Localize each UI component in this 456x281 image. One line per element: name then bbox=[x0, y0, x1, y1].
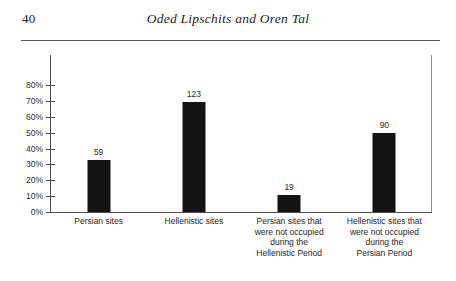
x-axis-category-labels: Persian sitesHellenistic sitesPersian si… bbox=[51, 216, 432, 276]
bar bbox=[182, 102, 205, 212]
y-axis-tick-label: 20% bbox=[26, 176, 43, 185]
bar-slot: 19 bbox=[242, 55, 337, 212]
bar-value-label: 59 bbox=[94, 148, 103, 157]
page-header: 40 Oded Lipschits and Oren Tal bbox=[0, 0, 456, 42]
y-axis-tick-label: 80% bbox=[26, 81, 43, 90]
x-axis-category-label-line: during the bbox=[242, 237, 337, 248]
bar-value-label: 19 bbox=[284, 183, 293, 192]
x-axis-category-label-line: Hellenistic Period bbox=[242, 248, 337, 259]
x-axis-category-label: Persian sites bbox=[51, 216, 146, 227]
y-axis-tick-label: 40% bbox=[26, 144, 43, 153]
x-axis-category-label-line: Hellenistic sites bbox=[146, 216, 241, 227]
x-axis-category-label: Hellenistic sites bbox=[146, 216, 241, 227]
x-axis-line bbox=[50, 212, 432, 213]
y-axis-tick-mark bbox=[46, 212, 55, 213]
y-axis-tick-label: 70% bbox=[26, 96, 43, 105]
bar-slot: 123 bbox=[146, 55, 241, 212]
bar bbox=[373, 133, 396, 212]
x-axis-category-label-line: were not occupied bbox=[242, 227, 337, 238]
x-axis-category-label-line: Persian sites that bbox=[242, 216, 337, 227]
x-axis-category-label-line: Persian sites bbox=[51, 216, 146, 227]
x-axis-category-label-line: Hellenistic sites that bbox=[337, 216, 432, 227]
x-axis-category-label-line: were not occupied bbox=[337, 227, 432, 238]
bar-chart: 0%10%20%30%40%50%60%70%80% 591231990 Per… bbox=[0, 44, 456, 281]
y-axis-tick-label: 0% bbox=[31, 208, 43, 217]
running-title: Oded Lipschits and Oren Tal bbox=[0, 11, 456, 26]
bar bbox=[278, 195, 301, 212]
y-axis-tick-label: 60% bbox=[26, 112, 43, 121]
bar-series: 591231990 bbox=[51, 55, 432, 212]
bar bbox=[87, 160, 110, 212]
y-axis-tick-label: 50% bbox=[26, 128, 43, 137]
x-axis-category-label: Persian sites thatwere not occupieddurin… bbox=[242, 216, 337, 258]
x-axis-category-label-line: Persian Period bbox=[337, 248, 432, 259]
header-rule bbox=[21, 40, 440, 41]
x-axis-category-label: Hellenistic sites thatwere not occupiedd… bbox=[337, 216, 432, 258]
bar-value-label: 90 bbox=[380, 121, 389, 130]
y-axis-tick-label: 30% bbox=[26, 160, 43, 169]
y-axis-tick-label: 10% bbox=[26, 192, 43, 201]
plot-area: 0%10%20%30%40%50%60%70%80% 591231990 bbox=[50, 55, 432, 212]
x-axis-category-label-line: during the bbox=[337, 237, 432, 248]
bar-slot: 90 bbox=[337, 55, 432, 212]
bar-value-label: 123 bbox=[187, 90, 201, 99]
bar-slot: 59 bbox=[51, 55, 146, 212]
